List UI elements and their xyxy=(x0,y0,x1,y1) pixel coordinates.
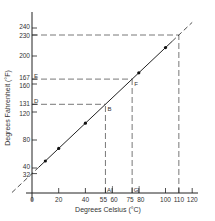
data-point xyxy=(44,159,47,162)
data-series xyxy=(12,22,192,192)
annotation-B: B xyxy=(107,106,111,112)
data-point xyxy=(57,147,60,150)
x-tick-label: 60 xyxy=(110,196,118,203)
y-axis-label: Degrees Fahrenheit (°F) xyxy=(4,70,12,146)
x-axis-label: Degrees Celsius (°C) xyxy=(75,206,141,214)
annotation-E: E xyxy=(34,73,38,79)
x-tick-label: 0 xyxy=(30,196,34,203)
y-tick-label: 32 xyxy=(23,171,31,178)
annotation-G: G xyxy=(134,187,139,193)
x-tick-label: 100 xyxy=(160,196,171,203)
x-tick-label: 40 xyxy=(82,196,90,203)
x-axis-ticks: 0204055607580100110120 xyxy=(30,188,198,203)
x-tick-label: 55 xyxy=(100,196,108,203)
y-tick-label: 200 xyxy=(19,52,30,59)
y-tick-label: 160 xyxy=(19,82,30,89)
x-tick-label: 20 xyxy=(55,196,63,203)
annotation-F: F xyxy=(134,81,138,87)
y-tick-label: 120 xyxy=(19,110,30,117)
y-tick-label: 80 xyxy=(23,136,31,143)
annotation-D: D xyxy=(34,98,39,104)
x-tick-label: 75 xyxy=(127,196,135,203)
y-tick-label: 230 xyxy=(19,32,30,39)
x-tick-label: 80 xyxy=(137,196,145,203)
y-tick-label: 240 xyxy=(19,23,30,30)
line-extension-high xyxy=(172,22,192,41)
x-tick-label: 110 xyxy=(174,196,185,203)
x-tick-label: 120 xyxy=(187,196,198,203)
conversion-chart: 0204055607580100110120 32408012013116016… xyxy=(0,0,215,221)
y-tick-label: 131 xyxy=(19,100,30,107)
annotations: ABDEFG xyxy=(34,73,139,193)
axes xyxy=(26,12,198,201)
y-tick-label: 167 xyxy=(19,74,30,81)
annotation-A: A xyxy=(107,187,111,193)
y-tick-label: 40 xyxy=(23,163,31,170)
data-point xyxy=(137,71,140,74)
dashed-guide-lines xyxy=(32,35,179,193)
data-point xyxy=(84,122,87,125)
data-point xyxy=(164,46,167,49)
